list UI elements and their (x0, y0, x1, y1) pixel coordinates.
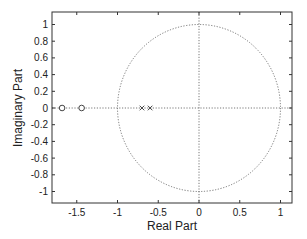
x-axis-label: Real Part (147, 219, 198, 233)
y-tick-label: 0.2 (34, 86, 48, 97)
y-tick-label: -1 (39, 186, 48, 197)
x-tick-label: -0.5 (150, 207, 168, 218)
y-tick-label: 1 (42, 19, 48, 30)
x-tick-label: -1.5 (68, 207, 86, 218)
x-tick-label: -1 (113, 207, 122, 218)
pole-zero-plot: -1.5-1-0.500.51 10.80.60.40.20-0.2-0.4-0… (0, 0, 307, 239)
pole-marker (140, 106, 145, 111)
x-axis-ticks: -1.5-1-0.500.51 (68, 12, 284, 218)
y-tick-label: 0.8 (34, 36, 48, 47)
x-tick-label: 1 (278, 207, 284, 218)
y-tick-label: -0.4 (31, 136, 49, 147)
plot-frame (52, 12, 292, 203)
x-tick-label: 0.5 (233, 207, 247, 218)
pole-marker (148, 106, 153, 111)
x-tick-label: 0 (196, 207, 202, 218)
y-tick-label: 0 (42, 103, 48, 114)
y-tick-label: -0.6 (31, 153, 49, 164)
y-tick-label: 0.4 (34, 69, 48, 80)
y-tick-label: 0.6 (34, 52, 48, 63)
y-axis-label: Imaginary Part (11, 68, 25, 147)
y-tick-label: -0.8 (31, 169, 49, 180)
zero-marker (59, 105, 65, 111)
zero-marker (79, 105, 85, 111)
y-tick-label: -0.2 (31, 119, 49, 130)
